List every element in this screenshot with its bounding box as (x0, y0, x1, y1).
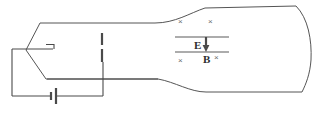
magnetic-field-label: B (203, 54, 210, 65)
field-into-page-mark-4: × (214, 54, 219, 62)
cathode-element (46, 45, 54, 50)
field-into-page-mark-1: × (178, 18, 183, 26)
field-into-page-mark-2: × (208, 18, 213, 26)
tube-envelope-top-outline (26, 6, 296, 50)
tube-envelope-bottom-outline (26, 50, 302, 92)
field-into-page-mark-3: × (178, 57, 183, 65)
tube-screen-curve (296, 6, 311, 92)
electric-field-arrow-head (203, 45, 210, 52)
electric-field-label: E (194, 40, 201, 51)
crt-diagram-canvas: E B × × × × (0, 0, 335, 118)
crt-diagram-svg (0, 0, 335, 118)
